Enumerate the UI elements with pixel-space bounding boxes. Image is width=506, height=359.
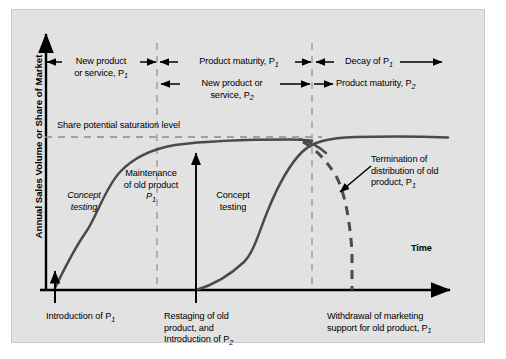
band-label-decay-p1: Decay of P1	[338, 56, 400, 68]
concept-testing-1-line1: Concept	[67, 190, 101, 200]
termination-line1: Termination of	[371, 154, 427, 164]
restaging-sub: 2	[229, 338, 233, 347]
introduction-p1-sub: 1	[111, 315, 115, 324]
product-life-cycle-figure: Annual Sales Volume or Share of Market T…	[0, 0, 506, 359]
band-label-new-product-p1-line2: or service, P	[74, 68, 124, 78]
termination-sub: 1	[412, 181, 416, 190]
maintenance-sub: 1	[152, 195, 156, 204]
saturation-level-label: Share potential saturation level	[57, 120, 180, 132]
maintenance-line2: of old product	[124, 180, 178, 190]
band-label-new-product-p2-sub: 2	[250, 93, 254, 102]
withdrawal-line2: support for old product, P	[327, 323, 428, 333]
concept-testing-2-line2: testing	[220, 202, 246, 212]
bottom-label-restaging: Restaging of old product, and Introducti…	[164, 311, 233, 346]
band-label-new-product-p1: New product or service, P1	[64, 56, 138, 79]
introduction-p1-line1: Introduction of P	[46, 311, 111, 321]
curve-p1-adoption	[55, 140, 312, 289]
x-axis-label: Time	[411, 243, 432, 255]
band-label-decay-p1-line1: Decay of P	[345, 56, 389, 66]
termination-pointer	[340, 166, 371, 192]
curve-label-maintenance: Maintenance of old product P1	[108, 168, 194, 203]
band-label-product-maturity-p1: Product maturity, P1	[184, 56, 294, 68]
concept-testing-2-line1: Concept	[216, 190, 250, 200]
restaging-line2: product, and	[164, 323, 214, 333]
restaging-line3: Introduction of P	[164, 334, 229, 344]
band-label-new-product-p1-line1: New product	[76, 56, 126, 66]
curve-label-concept-testing-2: Concept testing	[204, 190, 262, 213]
band-label-product-maturity-p1-line1: Product maturity, P	[199, 56, 275, 66]
curve-p1-decay	[303, 142, 352, 290]
maintenance-line1: Maintenance	[125, 168, 177, 178]
band-label-product-maturity-p1-sub: 1	[275, 60, 279, 69]
termination-line2: distribution of old	[371, 166, 439, 176]
band-label-new-product-p2: New product or service, P2	[186, 78, 278, 101]
band-label-product-maturity-p2-sub: 2	[412, 82, 416, 91]
bottom-label-withdrawal: Withdrawal of marketing support for old …	[327, 311, 431, 334]
curve-label-concept-testing-1: Concept testing	[55, 190, 113, 213]
curve-label-termination: Termination of distribution of old produ…	[371, 154, 439, 189]
band-label-product-maturity-p2: Product maturity, P2	[336, 78, 415, 90]
y-axis-label: Annual Sales Volume or Share of Market	[33, 47, 44, 247]
bottom-label-introduction-p1: Introduction of P1	[46, 311, 115, 323]
withdrawal-sub: 1	[428, 326, 432, 335]
withdrawal-line1: Withdrawal of marketing	[327, 311, 423, 321]
band-label-decay-p1-sub: 1	[389, 60, 393, 69]
termination-line3: product, P	[371, 177, 412, 187]
band-label-product-maturity-p2-line1: Product maturity, P	[336, 78, 412, 88]
band-label-new-product-p2-line2: service, P	[210, 90, 249, 100]
band-label-new-product-p2-line1: New product or	[202, 78, 263, 88]
concept-testing-1-line2: testing	[71, 202, 97, 212]
band-label-new-product-p1-sub: 1	[124, 71, 128, 80]
restaging-line1: Restaging of old	[164, 311, 229, 321]
